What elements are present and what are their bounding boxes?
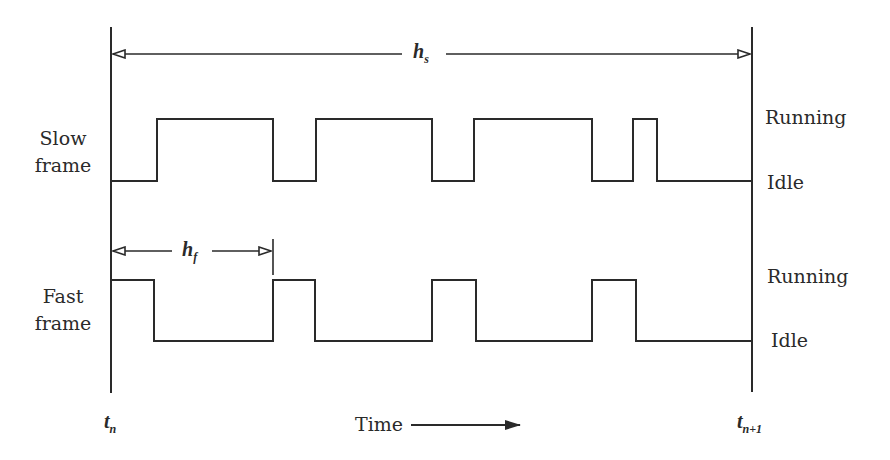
slow-frame-waveform [111, 119, 752, 181]
timing-diagram: hs hf Slow frame Fast frame Running Idle… [0, 0, 890, 460]
slow-frame-label-line1: Slow [18, 127, 108, 149]
slow-frame-label: Slow frame [18, 127, 108, 176]
slow-frame-label-line2: frame [18, 154, 108, 176]
fast-frame-waveform [111, 280, 752, 341]
end-time-subscript: n+1 [743, 422, 763, 436]
end-time-label: tn+1 [737, 410, 762, 437]
fast-period-subscript: f [193, 250, 197, 264]
diagram-lines [0, 0, 890, 460]
fast-running-state-label: Running [767, 265, 849, 287]
slow-idle-state-label: Idle [767, 171, 804, 193]
slow-period-subscript: s [424, 52, 429, 66]
fast-period-label: hf [182, 238, 197, 265]
fast-frame-label-line1: Fast [18, 285, 108, 307]
slow-period-symbol: h [413, 40, 424, 62]
fast-frame-label-line2: frame [18, 312, 108, 334]
start-time-label: tn [104, 410, 116, 437]
time-axis-label: Time [355, 413, 403, 435]
fast-period-symbol: h [182, 238, 193, 260]
start-time-subscript: n [110, 422, 117, 436]
fast-idle-state-label: Idle [771, 329, 808, 351]
slow-period-label: hs [413, 40, 429, 67]
fast-frame-label: Fast frame [18, 285, 108, 334]
slow-running-state-label: Running [765, 106, 847, 128]
